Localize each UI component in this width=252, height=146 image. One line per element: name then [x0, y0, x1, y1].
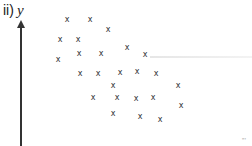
data-point-x-marker: x	[78, 70, 83, 78]
data-point-x-marker: x	[176, 82, 181, 90]
data-point-x-marker: x	[111, 110, 116, 118]
figure-label-prefix: ii)	[3, 2, 14, 18]
data-point-x-marker: x	[151, 94, 156, 102]
data-point-x-marker: x	[91, 94, 96, 102]
y-axis-label: y	[17, 2, 24, 18]
data-point-x-marker: x	[56, 56, 61, 64]
data-point-x-marker: x	[134, 95, 139, 103]
data-point-x-marker: x	[115, 94, 120, 102]
data-point-x-marker: x	[154, 70, 159, 78]
data-point-x-marker: x	[135, 68, 140, 76]
data-point-x-marker: x	[77, 50, 82, 58]
data-point-x-marker: x	[58, 36, 63, 44]
data-point-x-marker: x	[88, 16, 93, 24]
data-point-x-marker: x	[111, 82, 116, 90]
faint-line	[150, 56, 252, 58]
data-point-x-marker: x	[118, 69, 123, 77]
data-point-x-marker: x	[76, 36, 81, 44]
data-point-x-marker: x	[65, 16, 70, 24]
data-point-x-marker: x	[179, 102, 184, 110]
data-point-x-marker: x	[143, 51, 148, 59]
data-point-x-marker: x	[99, 50, 104, 58]
figure-label: ii)y	[3, 2, 24, 19]
data-point-x-marker: x	[158, 116, 163, 124]
data-point-x-marker: x	[106, 26, 111, 34]
data-point-x-marker: x	[125, 44, 130, 52]
data-point-x-marker: x	[96, 70, 101, 78]
y-axis-line	[20, 24, 22, 146]
data-point-x-marker: x	[138, 113, 143, 121]
corner-mark: ”’	[242, 137, 246, 144]
